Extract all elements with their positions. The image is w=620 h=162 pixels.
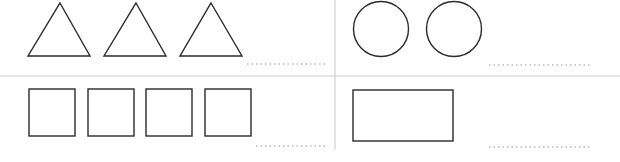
panel-triangles [28,3,242,56]
triangle-icon [104,3,166,56]
square-icon [29,89,75,136]
panel-squares [29,89,251,136]
square-icon [146,89,192,136]
shape-counting-worksheet [0,0,620,162]
triangle-icon [28,3,90,56]
circle-icon [354,2,409,57]
panel-rectangle [353,90,453,141]
square-icon [88,89,134,136]
rectangle-icon [353,90,453,141]
circle-icon [427,2,482,57]
square-icon [205,89,251,136]
triangle-icon [180,3,242,56]
panel-circles [354,2,482,57]
